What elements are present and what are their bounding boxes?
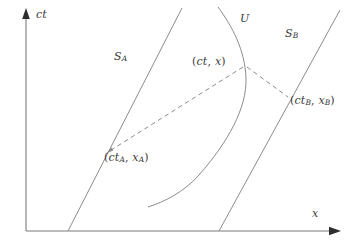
signal-line-to-b [247,67,288,97]
worldline-s-a [68,8,182,231]
ct-axis-label: ct [36,9,47,20]
worldline-s-a-label: SA [114,51,127,63]
center-comma: , [207,55,214,68]
ct-axis-arrowhead [22,8,30,19]
a-close-paren: ) [144,151,149,164]
worldline-u-label: U [240,13,249,24]
worldline-s-b-label: SB [285,28,298,40]
center-first: ct [197,55,208,68]
event-a-label: (ctA, xA) [104,152,149,164]
spacetime-diagram: ct x SA SB U (ct, x) (ctA, xA) (ctB, xB) [0,0,357,247]
b-first-main: ct [295,94,306,107]
s-a-main: S [114,50,122,63]
diagram-canvas [0,0,357,247]
s-b-sub: B [293,31,299,40]
event-b-label: (ctB, xB) [290,95,335,107]
a-first-main: ct [109,151,120,164]
center-close-paren: ) [221,55,226,68]
worldline-s-b [219,10,340,231]
s-a-sub: A [122,54,127,63]
event-center-label: (ct, x) [192,56,226,67]
x-axis-arrowhead [329,227,341,235]
signal-line-to-a [108,67,243,152]
s-b-main: S [285,27,293,40]
b-close-paren: ) [330,94,335,107]
worldline-u [148,7,246,207]
x-axis-label: x [312,208,318,219]
